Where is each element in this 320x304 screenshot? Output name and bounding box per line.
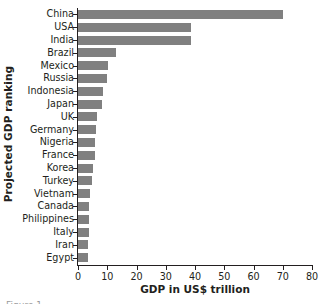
bar	[78, 112, 97, 121]
y-axis-tick-mark	[73, 117, 77, 118]
x-axis-tick-mark	[254, 266, 255, 270]
y-axis-tick-label: Brazil	[16, 48, 74, 58]
bar	[78, 189, 90, 198]
x-axis-tick-label: 30	[154, 271, 178, 282]
y-axis-tick-label: UK	[16, 112, 74, 122]
y-axis-tick-mark	[73, 40, 77, 41]
x-axis-tick-mark	[107, 266, 108, 270]
y-axis-tick-label: USA	[16, 22, 74, 32]
bar	[78, 23, 191, 32]
y-axis-tick-label: Mexico	[16, 61, 74, 71]
y-axis-tick-label: Japan	[16, 99, 74, 109]
bar	[78, 87, 103, 96]
y-axis-tick-mark	[73, 91, 77, 92]
y-axis-title-text: Projected GDP ranking	[2, 66, 14, 202]
y-axis-category-labels: ChinaUSAIndiaBrazilMexicoRussiaIndonesia…	[16, 8, 74, 264]
bar	[78, 61, 108, 70]
caption-sliver: Figure 1	[6, 300, 126, 304]
y-axis-tick-label: China	[16, 9, 74, 19]
bar	[78, 10, 283, 19]
x-axis-tick-label: 80	[300, 271, 320, 282]
y-axis-tick-mark	[73, 130, 77, 131]
bar	[78, 228, 89, 237]
y-axis-tick-mark	[73, 66, 77, 67]
x-axis-tick-label: 70	[271, 271, 295, 282]
y-axis-tick-label: Russia	[16, 73, 74, 83]
x-axis-tick-label: 10	[95, 271, 119, 282]
bar	[78, 125, 96, 134]
bar	[78, 240, 88, 249]
y-axis-tick-label: Egypt	[16, 253, 74, 263]
y-axis-tick-mark	[73, 168, 77, 169]
y-axis-tick-mark	[73, 104, 77, 105]
bar	[78, 100, 102, 109]
y-axis-tick-mark	[73, 206, 77, 207]
bar	[78, 74, 107, 83]
y-axis-tick-label: Germany	[16, 125, 74, 135]
y-axis-title: Projected GDP ranking	[0, 0, 16, 268]
x-axis-tick-label: 60	[242, 271, 266, 282]
x-axis-tick-mark	[166, 266, 167, 270]
y-axis-tick-mark	[73, 258, 77, 259]
x-axis-tick-mark	[78, 266, 79, 270]
bar	[78, 48, 116, 57]
bar	[78, 253, 88, 262]
y-axis-tick-label: France	[16, 150, 74, 160]
bar	[78, 202, 89, 211]
y-axis-tick-label: Korea	[16, 163, 74, 173]
y-axis-tick-mark	[73, 245, 77, 246]
y-axis-tick-label: India	[16, 35, 74, 45]
x-axis-tick-label: 50	[212, 271, 236, 282]
y-axis-tick-mark	[73, 219, 77, 220]
bar-chart: Projected GDP ranking ChinaUSAIndiaBrazi…	[0, 0, 320, 304]
bar	[78, 36, 191, 45]
x-axis-title: GDP in US$ trillion	[78, 283, 312, 295]
y-axis-tick-mark	[73, 155, 77, 156]
bar	[78, 138, 95, 147]
y-axis-tick-mark	[73, 142, 77, 143]
y-axis-tick-mark	[73, 232, 77, 233]
y-axis-tick-label: Nigeria	[16, 137, 74, 147]
y-axis-tick-label: Italy	[16, 227, 74, 237]
plot-area	[78, 8, 312, 264]
y-axis-tick-label: Turkey	[16, 176, 74, 186]
y-axis-tick-mark	[73, 53, 77, 54]
y-axis-tick-mark	[73, 181, 77, 182]
x-axis-tick-mark	[195, 266, 196, 270]
y-axis-tick-mark	[73, 194, 77, 195]
y-axis-tick-mark	[73, 14, 77, 15]
x-axis-tick-mark	[137, 266, 138, 270]
x-axis-tick-mark	[283, 266, 284, 270]
x-axis-tick-label: 0	[66, 271, 90, 282]
x-axis-tick-mark	[312, 266, 313, 270]
y-axis-tick-mark	[73, 78, 77, 79]
y-axis-tick-label: Vietnam	[16, 189, 74, 199]
y-axis-tick-label: Canada	[16, 201, 74, 211]
x-axis-tick-label: 40	[183, 271, 207, 282]
y-axis-tick-label: Philippines	[16, 214, 74, 224]
bar	[78, 176, 92, 185]
x-axis-tick-label: 20	[125, 271, 149, 282]
y-axis-tick-label: Iran	[16, 240, 74, 250]
bar	[78, 151, 95, 160]
bar	[78, 215, 89, 224]
bar	[78, 164, 93, 173]
y-axis-tick-mark	[73, 27, 77, 28]
x-axis-tick-mark	[224, 266, 225, 270]
y-axis-tick-label: Indonesia	[16, 86, 74, 96]
